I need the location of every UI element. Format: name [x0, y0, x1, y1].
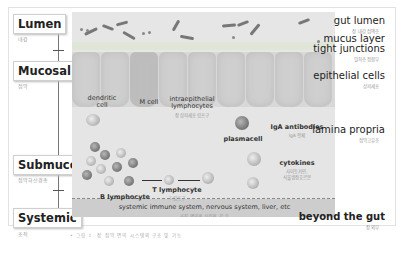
t-cell-cluster-icon: [202, 172, 214, 184]
bacterium-icon: [122, 31, 136, 41]
right-sub-epithelial-cells: 상피세포: [363, 83, 379, 89]
bacterium-icon: [116, 20, 128, 26]
layer-label-mucosal: Mucosal: [13, 61, 76, 81]
particle-icon: [86, 29, 89, 32]
t-lymphocyte-label: T lymphocyte: [152, 187, 202, 194]
b-cell-icon: [96, 164, 106, 174]
bacterium-icon: [298, 18, 310, 25]
layer-sub-lumen: 내강: [18, 35, 28, 42]
axis-tick: [53, 50, 64, 51]
cytokines-label: cytokines: [272, 160, 322, 167]
t-cell-icon: [247, 177, 259, 189]
particle-icon: [142, 32, 145, 35]
b-lymphocyte-label: B lymphocyte: [100, 194, 150, 201]
particle-icon: [80, 28, 83, 31]
systemic-text: systemic immune system, nervous system, …: [82, 204, 327, 211]
right-label-beyond-gut: beyond the gut: [299, 212, 385, 222]
gut-cross-section: dendritic cell M cell intraepithelial ly…: [72, 12, 335, 217]
layer-sub-mucosal: 점막: [18, 82, 28, 89]
particle-icon: [232, 36, 235, 39]
epithelial-cell: [246, 52, 274, 107]
bacterium-icon: [237, 20, 249, 27]
figure-caption: • 그림 1. 장 점막 면역 시스템의 구조 및 기능: [70, 232, 182, 238]
bacterium-icon: [180, 35, 194, 40]
t-cell-icon: [164, 175, 174, 185]
bacterium-icon: [172, 20, 181, 32]
axis-tick: [53, 190, 64, 191]
epithelial-cell: [275, 52, 303, 107]
right-label-lamina-propria: lamina propria: [312, 125, 385, 135]
b-cell-icon: [86, 156, 96, 166]
right-sub-tight-junctions: 밀착층 접합부: [354, 56, 379, 62]
b-cell-icon: [82, 170, 92, 180]
particle-icon: [148, 31, 151, 34]
right-sub-beyond-gut: 장 외부: [366, 224, 379, 230]
layer-label-lumen: Lumen: [13, 14, 66, 34]
b-cell-icon: [90, 142, 100, 152]
b-cell-icon: [128, 158, 138, 168]
layer-sub-submucosal: 점막하신경총: [18, 176, 48, 183]
b-cell-icon: [112, 162, 122, 172]
right-label-tight-junctions: tight junctions: [313, 44, 385, 54]
mucus-layer: [72, 42, 335, 50]
dendritic-cell-label: dendritic cell: [82, 95, 122, 109]
b-cell-icon: [124, 176, 134, 186]
b-cell-icon: [104, 176, 114, 186]
right-label-gut-lumen: gut lumen: [334, 16, 385, 26]
b-cell-icon: [100, 150, 110, 160]
b-cell-icon: [116, 148, 126, 158]
arrow-icon: [142, 180, 162, 181]
layer-sub-systemic: 조직: [18, 230, 28, 237]
plasmacell-label: plasmacell: [218, 136, 268, 143]
intraepithelial-label-ko: 장 상피세포 림프구: [162, 112, 222, 118]
systemic-text-ko: 조직 면역계, 신경계, 간 등: [82, 213, 327, 217]
t-lymphocyte-label-ko: T-림프구: [152, 195, 202, 201]
right-label-epithelial-cells: epithelial cells: [313, 71, 385, 81]
intraepithelial-label: intraepithelial lymphocytes: [162, 96, 222, 110]
m-cell-label: M cell: [134, 99, 164, 106]
bacterium-icon: [102, 24, 114, 31]
dendritic-cell-icon: [86, 114, 100, 126]
layer-axis: [58, 14, 59, 219]
right-sub-lamina-propria: 점막고유층: [359, 137, 379, 143]
arrow-icon: [178, 180, 200, 181]
bacterium-icon: [222, 23, 236, 27]
t-cell-icon: [247, 152, 261, 166]
bacterium-icon: [249, 23, 260, 36]
cytokines-label-ko: 사이토카인, 식물생장호르몬: [272, 168, 322, 180]
plasmacell-icon: [235, 116, 249, 130]
